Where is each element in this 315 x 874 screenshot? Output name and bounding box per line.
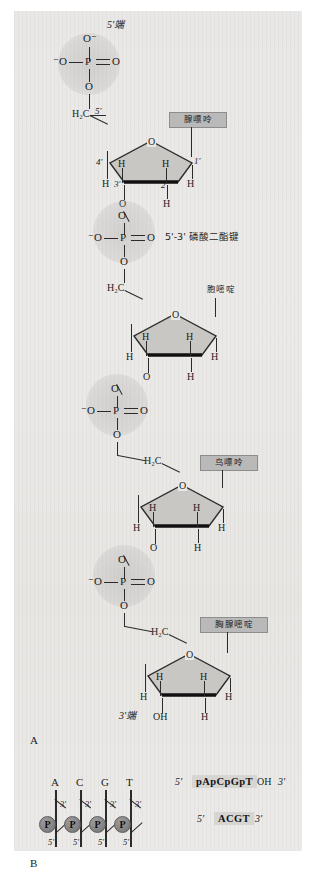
phosphate-2-bottom-oxygen: O <box>120 256 128 267</box>
seq2-text: ACGT <box>214 812 254 825</box>
c5-methylene-3: H₂C <box>144 456 161 466</box>
phosphodiester-bond-label: 5'-3' 磷酸二酯键 <box>165 232 239 242</box>
phosphate-2-right-oxygen: O <box>147 232 155 243</box>
figure-panel: 5'端 O⁻ ⁻O P O O H₂C 5' 腺嘌呤 O 4' H H 1' H… <box>14 11 302 851</box>
phosphate-3-left-oxygen: ⁻O <box>81 405 95 416</box>
phosphate-4-bottom-oxygen: O <box>120 600 128 611</box>
ring-oxygen-2: O <box>171 310 180 320</box>
c4-hydrogen-4: H <box>140 692 147 702</box>
ring-oxygen-1: O <box>147 137 156 147</box>
phosphorus-4: P <box>120 576 126 587</box>
panelb-3prime-3: 3' <box>110 800 116 809</box>
base-label-cytosine: 胞嘧啶 <box>193 283 249 297</box>
c5-methylene-4: H₂C <box>151 627 168 637</box>
phosphate-2-left-oxygen: ⁻O <box>88 232 102 243</box>
c2-hydrogen-4: H <box>201 712 208 722</box>
c1-hydrogen-4: H <box>225 692 232 702</box>
seq1-five-prime: 5' <box>175 777 182 787</box>
five-prime-end-label: 5'端 <box>107 20 124 30</box>
c3-oxygen-3: O <box>150 543 157 553</box>
c4-hydrogen-1: H <box>102 179 109 189</box>
c4-hydrogen-3: H <box>133 523 140 533</box>
phosphorus-3: P <box>113 405 119 416</box>
phosphate-1-bottom-oxygen: O <box>85 81 93 92</box>
c5-methylene-2: H₂C <box>107 283 124 293</box>
phosphate-3-bottom-oxygen: O <box>113 429 121 440</box>
phosphate-1-right-oxygen: O <box>112 56 120 67</box>
panelb-5prime-4: 5' <box>123 838 129 847</box>
phosphate-4-left-oxygen: ⁻O <box>88 576 102 587</box>
terminal-hydroxyl: OH <box>153 712 167 722</box>
c2-hydrogen-3: H <box>194 543 201 553</box>
phosphate-circle-1: P <box>39 816 56 833</box>
seq2-three-prime: 3' <box>255 814 262 824</box>
c4-position-1: 4' <box>96 158 102 167</box>
seq1-three-prime: 3' <box>278 777 285 787</box>
phosphate-circle-2: P <box>64 816 81 833</box>
panelb-3prime-2: 3' <box>85 800 91 809</box>
three-prime-end-label: 3'端 <box>119 711 136 721</box>
c3-oxygen-2: O <box>143 372 150 382</box>
phosphorus-2: P <box>120 232 126 243</box>
phosphate-circle-4: P <box>114 816 131 833</box>
ring-oxygen-3: O <box>178 481 187 491</box>
phosphate-circle-3: P <box>89 816 106 833</box>
c4-hydrogen-2: H <box>126 352 133 362</box>
phosphate-3-right-oxygen: O <box>140 405 148 416</box>
panelb-3prime-1: 3' <box>60 800 66 809</box>
ring-oxygen-4: O <box>185 650 194 660</box>
panelb-3prime-4: 3' <box>135 800 141 809</box>
base-label-thymine: 胸腺嘧啶 <box>200 617 268 633</box>
c2-hydrogen-2: H <box>187 372 194 382</box>
panelb-5prime-2: 5' <box>73 838 79 847</box>
panel-b-label: B <box>30 858 37 869</box>
c5-methylene-1: H₂C <box>72 109 89 119</box>
phosphorus-1: P <box>85 56 91 67</box>
panelb-base-letter-c: C <box>76 777 83 788</box>
phosphate-2-top-oxygen: O <box>118 210 126 221</box>
phosphate-4-top-oxygen: O <box>118 554 126 565</box>
seq1-text: pApCpGpT <box>192 775 257 788</box>
panelb-base-letter-t: T <box>126 777 133 788</box>
base-label-adenine: 腺嘌呤 <box>169 112 227 128</box>
phosphate-1-left-oxygen: ⁻O <box>53 56 67 67</box>
phosphate-3-top-oxygen: O <box>111 383 119 394</box>
panelb-base-letter-g: G <box>101 777 109 788</box>
phosphate-4-right-oxygen: O <box>147 576 155 587</box>
seq1-hydroxyl: OH <box>257 777 271 787</box>
c1-hydrogen-3: H <box>218 523 225 533</box>
base-label-guanine: 鸟嘌呤 <box>200 455 258 471</box>
panelb-5prime-1: 5' <box>48 838 54 847</box>
seq2-five-prime: 5' <box>197 814 204 824</box>
c1-position-1: 1' <box>194 157 200 166</box>
panel-a-label: A <box>30 735 38 746</box>
c1-hydrogen-1: H <box>187 179 194 189</box>
c3-position-1: 3' <box>114 180 120 189</box>
c2-hydrogen-1: H <box>163 199 170 209</box>
panelb-base-letter-a: A <box>51 777 59 788</box>
phosphate-1-top-oxygen: O⁻ <box>83 33 97 44</box>
c1-hydrogen-2: H <box>211 352 218 362</box>
panelb-5prime-3: 5' <box>98 838 104 847</box>
